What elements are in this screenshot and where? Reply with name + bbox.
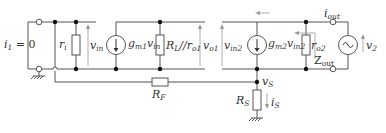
label-ro2: ro2: [311, 40, 326, 53]
resistor-rf: [152, 78, 168, 86]
input-terminal-bottom: [36, 66, 42, 72]
label-ri: ri: [59, 39, 67, 52]
label-iout: iout: [324, 8, 340, 21]
label-gm1-vin: gm1vin: [128, 38, 160, 51]
label-v2: v2: [366, 40, 377, 53]
label-is: iS: [271, 97, 280, 110]
label-zout: Zout: [314, 55, 334, 68]
label-i1: i1 = 0: [4, 39, 36, 52]
label-rs: RS: [236, 95, 249, 108]
resistor-rs: [253, 90, 261, 110]
label-vo1: vo1: [203, 40, 219, 53]
label-vs: vS: [262, 76, 273, 89]
label-vin2: vin2: [224, 40, 242, 53]
ground-symbols: [31, 72, 263, 121]
label-rf: RF: [152, 89, 166, 102]
label-rl-ro1: RL//ro1: [166, 40, 201, 53]
circuit-diagram: i1 = 0 ri vin gm1vin RL//ro1 vo1 vin2 gm…: [0, 0, 386, 133]
label-vin: vin: [90, 40, 103, 53]
label-gm2-vin2: gm2vin2: [268, 38, 305, 51]
input-terminal-top: [36, 19, 42, 25]
resistor-ri: [72, 35, 80, 55]
